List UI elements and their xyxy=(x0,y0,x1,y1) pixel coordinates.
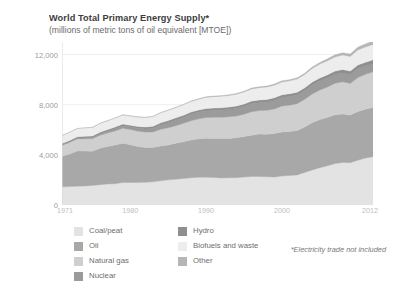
legend-swatch-icon xyxy=(178,242,187,251)
y-tick-label: 12,000 xyxy=(18,50,58,59)
x-axis-tick-labels: 19711980199020002012 xyxy=(62,206,373,220)
legend-item-label: Biofuels and waste xyxy=(193,242,258,250)
legend-swatch-icon xyxy=(74,272,83,281)
legend-item-label: Hydro xyxy=(193,227,214,235)
legend-item[interactable]: Other xyxy=(178,254,258,268)
legend-item[interactable]: Natural gas xyxy=(74,254,129,268)
y-tick-label: 4,000 xyxy=(18,150,58,159)
legend-column-right: HydroBiofuels and wasteOther xyxy=(178,224,258,269)
chart-footnote: *Electricity trade not included xyxy=(266,245,386,255)
legend-item[interactable]: Hydro xyxy=(178,224,258,238)
y-axis-tick-labels: 04,0008,00012,000 xyxy=(14,42,58,205)
legend-item-label: Oil xyxy=(89,242,99,250)
y-tick-label: 0 xyxy=(18,201,58,210)
plot-area xyxy=(62,42,373,205)
legend-swatch-icon xyxy=(74,242,83,251)
legend-column-left: Coal/peatOilNatural gasNuclear xyxy=(74,224,129,284)
legend-swatch-icon xyxy=(178,257,187,266)
legend-item[interactable]: Biofuels and waste xyxy=(178,239,258,253)
x-tick-label: 1971 xyxy=(57,206,73,215)
legend-item[interactable]: Nuclear xyxy=(74,269,129,283)
x-tick-label: 1990 xyxy=(198,206,214,215)
legend-swatch-icon xyxy=(74,257,83,266)
stacked-area-plot xyxy=(62,42,373,205)
y-tick-label: 8,000 xyxy=(18,100,58,109)
x-tick-label: 2012 xyxy=(362,206,378,215)
chart-figure: World Total Primary Energy Supply* (mill… xyxy=(0,0,400,292)
chart-title: World Total Primary Energy Supply* xyxy=(49,13,209,23)
legend-item[interactable]: Oil xyxy=(74,239,129,253)
x-tick-label: 1980 xyxy=(122,206,138,215)
legend-item-label: Other xyxy=(193,257,213,265)
legend-item-label: Nuclear xyxy=(89,272,116,280)
legend-swatch-icon xyxy=(178,227,187,236)
legend-item[interactable]: Coal/peat xyxy=(74,224,129,238)
legend-swatch-icon xyxy=(74,227,83,236)
chart-subtitle: (millions of metric tons of oil equivale… xyxy=(49,25,231,35)
x-tick-label: 2000 xyxy=(274,206,290,215)
legend-item-label: Coal/peat xyxy=(89,227,122,235)
legend-item-label: Natural gas xyxy=(89,257,129,265)
